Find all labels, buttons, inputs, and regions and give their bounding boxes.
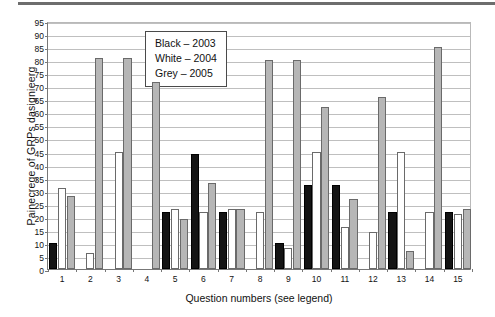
bar (406, 251, 414, 269)
bar-group (106, 23, 132, 269)
bar (162, 212, 170, 269)
y-tick-mark (45, 75, 48, 76)
x-tick-label: 14 (425, 274, 434, 284)
y-tick-mark (45, 232, 48, 233)
bar-group (49, 23, 75, 269)
bar (425, 212, 433, 269)
x-axis-title: Question numbers (see legend) (47, 292, 471, 304)
y-tick-mark (45, 193, 48, 194)
x-tick-mark (302, 269, 303, 272)
bar (228, 209, 236, 269)
y-tick-label: 80 (35, 57, 44, 67)
bar (115, 152, 123, 269)
bar (349, 199, 357, 269)
x-tick-mark (274, 269, 275, 272)
bar (284, 248, 292, 269)
x-tick-label: 1 (60, 274, 65, 284)
y-tick-label: 85 (35, 44, 44, 54)
y-tick-mark (45, 167, 48, 168)
bar (86, 253, 94, 269)
y-tick-mark (45, 127, 48, 128)
bar-group (417, 23, 443, 269)
y-tick-label: 5 (39, 253, 44, 263)
x-tick-mark (76, 269, 77, 272)
x-tick-mark (387, 269, 388, 272)
bar (304, 185, 312, 269)
bar (445, 212, 453, 269)
x-tick-label: 6 (201, 274, 206, 284)
x-tick-mark (48, 269, 49, 272)
y-tick-label: 40 (35, 162, 44, 172)
x-tick-mark (218, 269, 219, 272)
y-tick-mark (45, 219, 48, 220)
bar (123, 58, 131, 269)
x-tick-label: 11 (340, 274, 349, 284)
y-tick-label: 45 (35, 149, 44, 159)
y-tick-mark (45, 206, 48, 207)
bar (454, 214, 462, 269)
x-tick-mark (161, 269, 162, 272)
x-tick-label: 5 (173, 274, 178, 284)
bar (191, 154, 199, 269)
bar (378, 97, 386, 269)
y-tick-mark (45, 23, 48, 24)
y-tick-label: 70 (35, 83, 44, 93)
bar (180, 219, 188, 269)
y-tick-label: 15 (35, 227, 44, 237)
y-tick-label: 90 (35, 31, 44, 41)
y-tick-mark (45, 88, 48, 89)
chart-legend: Black – 2003 White – 2004 Grey – 2005 (145, 31, 227, 87)
y-tick-label: 20 (35, 214, 44, 224)
x-tick-label: 2 (88, 274, 93, 284)
x-tick-mark (472, 269, 473, 272)
bar-group (360, 23, 386, 269)
bar (208, 183, 216, 269)
y-tick-label: 75 (35, 70, 44, 80)
bar-group (275, 23, 301, 269)
bar-group (78, 23, 104, 269)
y-tick-mark (45, 154, 48, 155)
legend-entry-grey: Grey – 2005 (155, 66, 217, 81)
x-tick-mark (444, 269, 445, 272)
x-tick-mark (331, 269, 332, 272)
x-tick-mark (359, 269, 360, 272)
y-tick-label: 35 (35, 175, 44, 185)
legend-entry-black: Black – 2003 (155, 36, 217, 51)
bar (265, 60, 273, 269)
y-tick-label: 25 (35, 201, 44, 211)
x-tick-label: 15 (453, 274, 462, 284)
y-tick-label: 30 (35, 188, 44, 198)
bar (397, 152, 405, 269)
y-tick-mark (45, 140, 48, 141)
x-tick-mark (246, 269, 247, 272)
y-tick-mark (45, 36, 48, 37)
bar (67, 196, 75, 269)
bar (332, 185, 340, 269)
bar (312, 152, 320, 269)
bar (199, 212, 207, 269)
bar (463, 209, 471, 269)
y-tick-label: 55 (35, 122, 44, 132)
bar (58, 188, 66, 269)
bar (171, 209, 179, 269)
bar-group (332, 23, 358, 269)
bar (219, 212, 227, 269)
bar (369, 232, 377, 269)
y-tick-label: 65 (35, 96, 44, 106)
bar (95, 58, 103, 269)
bar (321, 107, 329, 269)
y-tick-mark (45, 258, 48, 259)
y-tick-label: 10 (35, 240, 44, 250)
x-tick-label: 4 (145, 274, 150, 284)
y-tick-label: 95 (35, 18, 44, 28)
bar (275, 243, 283, 269)
bar (256, 212, 264, 269)
x-tick-mark (105, 269, 106, 272)
bar-group (388, 23, 414, 269)
y-tick-mark (45, 180, 48, 181)
bar-chart-figure: Painecrege of GRPs dasignieerg 051015202… (0, 0, 495, 317)
y-tick-mark (45, 49, 48, 50)
bar (341, 227, 349, 269)
bar (293, 60, 301, 269)
bar (49, 243, 57, 269)
